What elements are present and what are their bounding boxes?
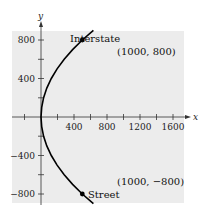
y-axis-arrow-icon — [39, 21, 43, 27]
x-tick-label-1600: 1600 — [162, 122, 185, 132]
x-axis-label: x — [193, 112, 198, 122]
street-label: Street — [88, 189, 120, 200]
y-tick-label-800: 800 — [18, 35, 35, 45]
x-axis-arrow-icon — [185, 115, 191, 119]
parabola-chart: 400 800 1200 1600 800 400 −400 −800 x y … — [0, 0, 205, 214]
point-street — [80, 192, 85, 197]
point-bottom-label: (1000, −800) — [117, 176, 184, 187]
x-tick-label-800: 800 — [98, 122, 115, 132]
y-axis-label: y — [37, 11, 44, 21]
point-top-label: (1000, 800) — [117, 46, 176, 57]
x-tick-label-400: 400 — [65, 122, 82, 132]
y-tick-label-neg800: −800 — [10, 189, 35, 199]
x-tick-label-1200: 1200 — [129, 122, 152, 132]
interstate-label: Interstate — [70, 33, 120, 44]
y-tick-label-neg400: −400 — [10, 151, 35, 161]
y-tick-label-400: 400 — [18, 74, 35, 84]
